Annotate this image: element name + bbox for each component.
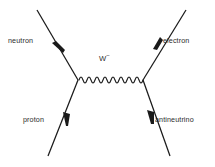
electron-label: electron (163, 36, 189, 45)
w-boson-label: W− (99, 54, 110, 63)
proton-arrow-icon (63, 112, 70, 126)
proton-line (48, 80, 78, 156)
w-boson-propagator (79, 77, 143, 83)
neutron-arrow-icon (52, 41, 65, 53)
proton-label: proton (23, 115, 44, 124)
w-boson-charge: − (106, 52, 110, 58)
electron-line (143, 10, 186, 80)
feynman-diagram: neutron electron proton antineutrino W− (0, 0, 215, 167)
neutron-line (37, 10, 78, 80)
diagram-canvas (0, 0, 215, 167)
antineutrino-arrow-icon (147, 110, 154, 124)
antineutrino-label: antineutrino (155, 115, 194, 124)
neutron-label: neutron (8, 36, 33, 45)
electron-arrow-icon (153, 37, 163, 50)
